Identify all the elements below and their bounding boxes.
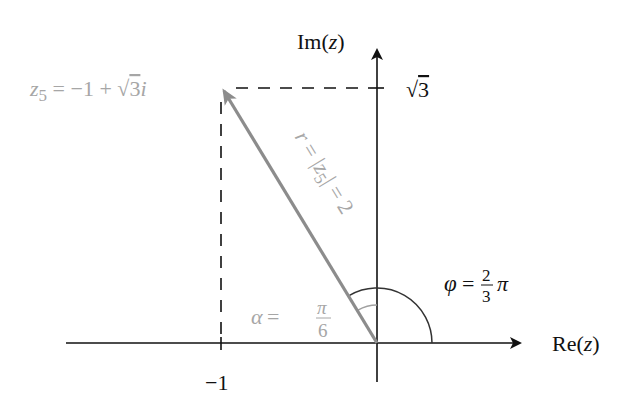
svg-text:3: 3 xyxy=(482,287,491,306)
phi-angle-label: φ = 2 3 π xyxy=(444,266,509,306)
svg-text:=: = xyxy=(462,271,474,296)
vector-magnitude-label: r = |z5| = 2 xyxy=(287,126,360,220)
alpha-angle-label: α = π 6 xyxy=(251,297,331,341)
alpha-angle-arc xyxy=(358,305,377,310)
real-axis-label: Re(z) xyxy=(552,331,600,356)
svg-text:φ: φ xyxy=(444,271,457,296)
imaginary-axis-label: Im(z) xyxy=(297,29,345,54)
svg-text:π: π xyxy=(317,297,327,318)
point-label-z5: z5 = −1 + √3i xyxy=(29,76,147,105)
y-tick-label-sqrt3: √3 xyxy=(406,77,429,102)
complex-plane-diagram: z5 = −1 + √3i Im(z) √3 Re(z) −1 r = |z5|… xyxy=(0,0,643,406)
svg-text:π: π xyxy=(497,271,509,296)
svg-text:6: 6 xyxy=(318,320,328,341)
z5-vector-arrow xyxy=(224,91,377,343)
svg-text:2: 2 xyxy=(482,266,491,285)
svg-text:α: α xyxy=(251,304,263,329)
x-tick-label-minus-one: −1 xyxy=(205,370,228,395)
svg-text:=: = xyxy=(267,304,279,329)
